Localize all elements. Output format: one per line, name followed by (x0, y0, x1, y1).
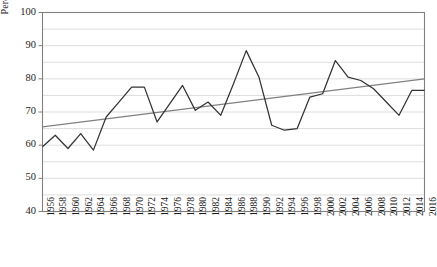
data-series-line (43, 51, 425, 151)
x-axis-tick-label: 1988 (250, 197, 260, 216)
plot-area (0, 0, 437, 267)
y-axis-tick-label: 40 (6, 206, 36, 217)
x-axis-tick-label: 1972 (148, 197, 158, 216)
percentage-line-chart: Percentage 405060708090100 1956195819601… (0, 0, 437, 267)
trend-line (43, 79, 425, 127)
x-axis-tick-label: 1976 (174, 197, 184, 216)
x-axis-tick-label: 2004 (352, 197, 362, 216)
x-axis-tick-label: 1964 (97, 197, 107, 216)
x-axis-tick-label: 2006 (365, 197, 375, 216)
y-axis-tick-label: 60 (6, 139, 36, 150)
x-axis-tick-label: 1966 (110, 197, 120, 216)
x-axis-tick-label: 1990 (263, 197, 273, 216)
x-axis-tick-label: 1982 (212, 197, 222, 216)
x-axis-tick-label: 2016 (429, 197, 437, 216)
x-axis-tick-label: 1998 (314, 197, 324, 216)
x-axis-tick-label: 2012 (403, 197, 413, 216)
y-axis-ticks (39, 13, 43, 212)
x-axis-tick-label: 1986 (238, 197, 248, 216)
x-axis-tick-label: 2000 (327, 197, 337, 216)
y-axis-tick-label: 50 (6, 172, 36, 183)
x-axis-tick-label: 1974 (161, 197, 171, 216)
y-axis-tick-label: 80 (6, 73, 36, 84)
x-axis-tick-label: 1962 (85, 197, 95, 216)
x-axis-tick-label: 1978 (187, 197, 197, 216)
y-axis-tick-label: 90 (6, 40, 36, 51)
x-axis-tick-label: 1992 (276, 197, 286, 216)
x-axis-tick-label: 1970 (136, 197, 146, 216)
x-axis-tick-label: 1994 (288, 197, 298, 216)
y-axis-tick-label: 70 (6, 106, 36, 117)
x-axis-tick-label: 1984 (225, 197, 235, 216)
x-axis-tick-label: 1980 (199, 197, 209, 216)
x-axis-tick-label: 1958 (59, 197, 69, 216)
x-axis-tick-label: 2014 (416, 197, 426, 216)
x-axis-tick-label: 2002 (339, 197, 349, 216)
x-axis-tick-label: 2010 (390, 197, 400, 216)
x-axis-tick-label: 2008 (378, 197, 388, 216)
x-axis-tick-label: 1968 (123, 197, 133, 216)
x-axis-tick-label: 1960 (72, 197, 82, 216)
y-axis-tick-label: 100 (6, 7, 36, 18)
x-axis-tick-label: 1996 (301, 197, 311, 216)
x-axis-tick-label: 1956 (47, 197, 57, 216)
